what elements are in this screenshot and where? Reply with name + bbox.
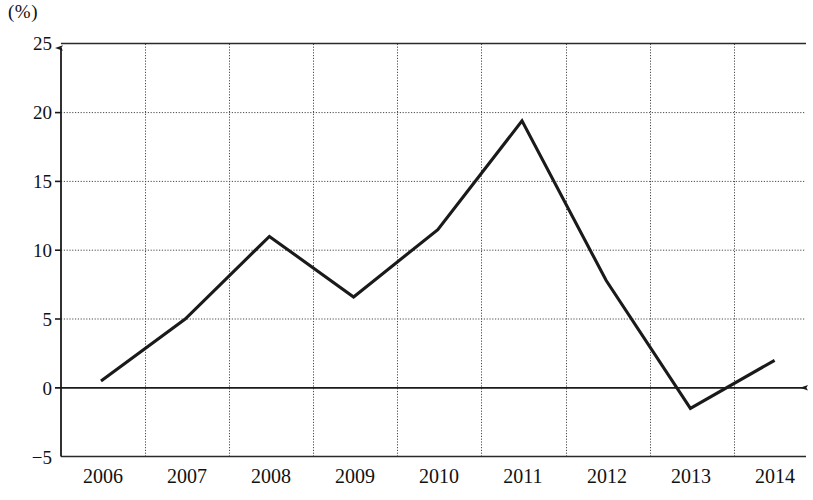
x-tick-label-2011: 2011 bbox=[481, 466, 565, 486]
x-tick-label-2014: 2014 bbox=[733, 466, 813, 486]
data-series-line bbox=[101, 121, 775, 409]
x-tick-label-2012: 2012 bbox=[565, 466, 649, 486]
line-chart: (%) 25 20 15 10 5 0 −5 bbox=[0, 0, 813, 500]
plot-area bbox=[0, 0, 813, 500]
horizontal-gridlines bbox=[61, 113, 805, 319]
x-tick-label-2006: 2006 bbox=[61, 466, 145, 486]
x-tick-label-2008: 2008 bbox=[229, 466, 313, 486]
x-tick-label-2010: 2010 bbox=[397, 466, 481, 486]
x-tick-label-2007: 2007 bbox=[145, 466, 229, 486]
x-tick-label-2009: 2009 bbox=[313, 466, 397, 486]
x-tick-label-2013: 2013 bbox=[649, 466, 733, 486]
